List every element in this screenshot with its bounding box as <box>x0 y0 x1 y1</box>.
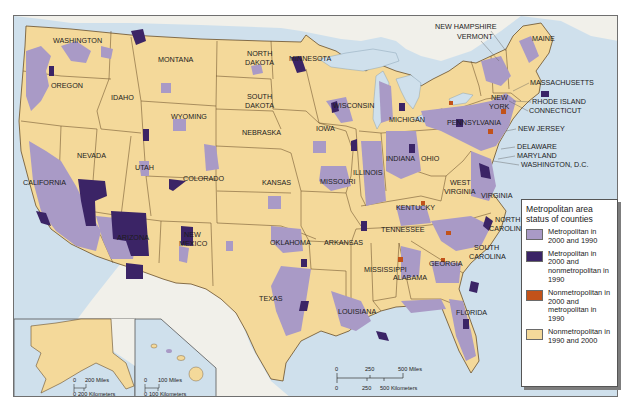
map-label: 0 <box>335 385 338 391</box>
legend-swatch-metro-both <box>526 229 543 240</box>
map-label: NEW JERSEY <box>518 124 565 133</box>
legend-title: Metropolitan area status of counties <box>526 204 614 224</box>
legend-item-metro-new: Metropolitan in 2000 and nonmetropolitan… <box>526 250 614 285</box>
map-label: SOUTH <box>247 92 272 101</box>
map-label: 0 <box>73 391 76 397</box>
map-label: MARYLAND <box>517 151 557 160</box>
map-label: WASHINGTON, D.C. <box>521 160 588 169</box>
map-label: RHODE ISLAND <box>532 97 586 106</box>
map-label: NEW HAMPSHIRE <box>435 22 497 31</box>
map-label: 200 Miles <box>85 377 109 383</box>
map-label: MISSOURI <box>320 177 356 186</box>
map-label: 500 Miles <box>398 366 422 372</box>
legend-label: Metropolitan in 2000 and 1990 <box>548 228 614 246</box>
map-label: TEXAS <box>259 294 283 303</box>
map-legend: Metropolitan area status of counties Met… <box>521 199 618 387</box>
map-label: ARIZONA <box>117 233 149 242</box>
legend-label: Metropolitan in 2000 and nonmetropolitan… <box>548 250 614 285</box>
legend-label: Nonmetropolitan in 2000 and metropolitan… <box>548 289 614 324</box>
map-label: INDIANA <box>386 154 415 163</box>
map-label: PENNSYLVANIA <box>447 118 501 127</box>
map-label: IOWA <box>316 124 335 133</box>
map-label: 0 <box>73 377 76 383</box>
legend-label: Nonmetropolitan in 1990 and 2000 <box>548 328 614 346</box>
map-label: COLORADO <box>183 174 225 183</box>
map-label: SOUTH <box>474 243 499 252</box>
map-label: MICHIGAN <box>389 115 425 124</box>
map-label: DAKOTA <box>245 58 274 67</box>
legend-swatch-nonmetro-new <box>526 290 543 301</box>
figure-caption-faint <box>10 402 430 408</box>
map-label: MEXICO <box>179 239 208 248</box>
map-label: FLORIDA <box>456 308 487 317</box>
legend-item-nonmetro-new: Nonmetropolitan in 2000 and metropolitan… <box>526 289 614 324</box>
map-label: UTAH <box>135 163 154 172</box>
map-label: ALABAMA <box>393 273 427 282</box>
map-label: VERMONT <box>457 32 494 41</box>
map-label: 250 <box>362 385 371 391</box>
map-label: 200 Kilometers <box>78 391 116 397</box>
map-label: IDAHO <box>111 93 134 102</box>
map-label: LOUISIANA <box>338 307 377 316</box>
map-label: 0 <box>335 366 338 372</box>
map-label: MINNESOTA <box>289 54 331 63</box>
map-label: MONTANA <box>158 55 194 64</box>
map-label: DAKOTA <box>245 101 274 110</box>
map-label: MAINE <box>532 34 555 43</box>
map-label: NORTH <box>495 215 520 224</box>
map-label: 0 <box>144 391 147 397</box>
map-label: WASHINGTON <box>53 36 102 45</box>
map-label: KENTUCKY <box>396 203 435 212</box>
map-label: OHIO <box>421 154 440 163</box>
map-label: WEST <box>450 178 471 187</box>
map-label: CALIFORNIA <box>23 178 66 187</box>
map-label: OKLAHOMA <box>270 238 311 247</box>
map-label: YORK <box>489 102 510 111</box>
map-label: 100 Kilometers <box>149 391 187 397</box>
legend-swatch-nonmetro-both <box>526 329 543 340</box>
map-label: 500 Kilometers <box>380 385 418 391</box>
map-label: NEVADA <box>77 151 106 160</box>
map-label: CONNECTICUT <box>529 106 582 115</box>
legend-item-nonmetro-both: Nonmetropolitan in 1990 and 2000 <box>526 328 614 346</box>
map-label: DELAWARE <box>517 142 557 151</box>
map-label: ILLINOIS <box>353 168 383 177</box>
map-label: VIRGINIA <box>444 187 476 196</box>
map-label: WISCONSIN <box>333 101 375 110</box>
map-label: NEW <box>184 230 201 239</box>
map-label: 250 <box>365 366 374 372</box>
map-label: VIRGINIA <box>481 191 513 200</box>
map-label: 0 <box>144 377 147 383</box>
legend-swatch-metro-new <box>526 251 543 262</box>
map-label: OREGON <box>51 81 83 90</box>
map-label: GEORGIA <box>429 259 463 268</box>
map-label: 100 Miles <box>158 377 182 383</box>
map-label: KANSAS <box>262 178 291 187</box>
legend-item-metro-both: Metropolitan in 2000 and 1990 <box>526 228 614 246</box>
map-label: WYOMING <box>171 112 207 121</box>
alaska-inset <box>14 319 135 397</box>
map-label: NEBRASKA <box>242 128 281 137</box>
map-label: MASSACHUSETTS <box>530 78 594 87</box>
map-label: TENNESSEE <box>381 225 425 234</box>
map-label: NEW <box>491 93 508 102</box>
map-label: NORTH <box>247 49 272 58</box>
map-label: ARKANSAS <box>324 238 363 247</box>
map-label: CAROLINA <box>469 252 506 261</box>
